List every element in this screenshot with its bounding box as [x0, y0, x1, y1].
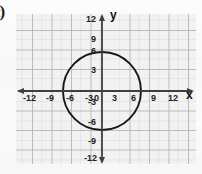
- x-tick-label-3: 3: [112, 94, 117, 103]
- x-tick-label-12: 12: [168, 94, 178, 103]
- coordinate-plane: [16, 14, 196, 164]
- x-tick-label--12: -12: [23, 94, 36, 103]
- x-tick-label-6: 6: [131, 94, 136, 103]
- y-tick-label--3: -3: [88, 98, 96, 107]
- x-tick-label--6: -6: [66, 94, 74, 103]
- y-tick-label-9: 9: [91, 35, 96, 44]
- x-tick-label-9: 9: [151, 94, 156, 103]
- x-tick-label--9: -9: [46, 94, 54, 103]
- y-tick-label--12: -12: [84, 154, 97, 163]
- y-tick-label--6: -6: [88, 118, 96, 127]
- y-tick-label-3: 3: [91, 66, 96, 75]
- y-tick-label-12: 12: [86, 15, 96, 24]
- figure-canvas: c): [0, 0, 202, 174]
- y-tick-label--9: -9: [88, 137, 96, 146]
- x-axis-name: x: [186, 88, 193, 102]
- item-label: c): [0, 2, 4, 22]
- graph-panel: -12 -9 -6 -3 0 3 6 9 12 12 9 6 3 -3 -6 -…: [16, 14, 196, 164]
- y-axis-name: y: [110, 8, 117, 22]
- y-tick-label-6: 6: [91, 47, 96, 56]
